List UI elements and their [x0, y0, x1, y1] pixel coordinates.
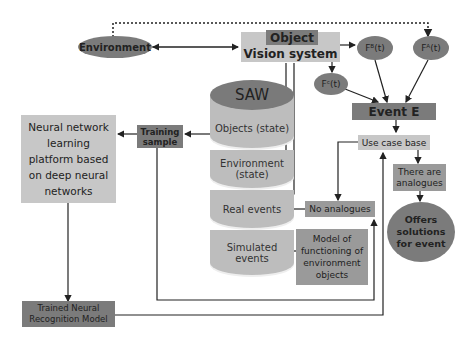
there-are-analogues-node: There are analogues — [393, 164, 446, 191]
training-sample-node: Training sample — [137, 125, 183, 148]
object-label: Object — [266, 30, 318, 45]
f-c-node: Fᶜ(t) — [314, 73, 348, 95]
saw-segment-environment: Environment (state) — [210, 150, 294, 188]
vision-system-label: Vision system — [241, 46, 340, 62]
saw-segment-simulated: Simulated events — [210, 230, 294, 275]
neural-platform-node: Neural network learning platform based o… — [21, 115, 116, 203]
use-case-base-node: Use case base — [358, 135, 430, 150]
saw-segment-label: Simulated events — [210, 242, 294, 264]
environment-node: Environment — [78, 36, 152, 58]
f-a-node: Fᴬ(t) — [413, 36, 449, 60]
saw-segment-real: Real events — [210, 190, 294, 228]
saw-segment-label: Environment (state) — [210, 158, 294, 180]
model-of-functioning-node: Model of functioning of environment obje… — [296, 229, 368, 285]
f-b-node: Fᴮ(t) — [357, 36, 393, 60]
trained-model-node: Trained Neural Recognition Model — [22, 301, 115, 327]
offers-solutions-node: Offers solutions for event — [387, 202, 455, 262]
no-analogues-node: No analogues — [305, 201, 375, 217]
saw-title: SAW — [210, 80, 294, 110]
saw-segment-label: Real events — [223, 204, 281, 215]
event-e-node: Event E — [352, 103, 436, 120]
saw-segment-label: Objects (state) — [215, 123, 289, 134]
